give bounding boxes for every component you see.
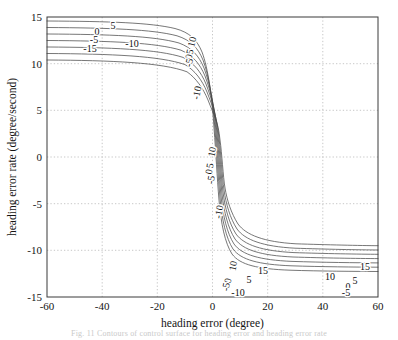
contour-label: 5 [353, 275, 358, 286]
x-tick-label: -20 [150, 300, 165, 312]
contour-label: 5 [204, 162, 216, 169]
contour-label: -5 [342, 287, 350, 298]
contour-label: 5 [111, 20, 116, 31]
contour-label: -10 [231, 287, 244, 298]
contour-label: -10 [212, 204, 225, 219]
contour-label: 10 [185, 36, 198, 48]
x-tick-label: -40 [95, 300, 110, 312]
contour-label: -15 [83, 43, 96, 54]
y-tick-label: -10 [27, 244, 42, 256]
figure-caption: Fig. 11 Contours of control surface for … [0, 327, 398, 340]
x-tick-label: 40 [317, 300, 329, 312]
contour-label: 10 [325, 271, 335, 282]
contour-label: -10 [125, 38, 138, 49]
contour-label: 15 [360, 261, 370, 272]
x-tick-label: 20 [262, 300, 274, 312]
contour-figure: -60-40-200204060 -15-10-5051015 5500-5-5… [0, 0, 398, 340]
y-tick-label: 5 [37, 104, 43, 116]
contour-label: 15 [258, 265, 268, 276]
plot-annotations: -60-40-200204060 -15-10-5051015 5500-5-5… [0, 0, 398, 340]
y-tick-label: -15 [27, 291, 42, 303]
x-tick-label: 60 [373, 300, 385, 312]
contour-label: 10 [227, 260, 240, 272]
y-tick-labels: -15-10-5051015 [27, 11, 42, 303]
y-tick-label: 15 [31, 11, 43, 23]
x-tick-labels: -60-40-200204060 [40, 300, 384, 312]
contour-label: 5 [247, 274, 252, 285]
y-axis-title: heading error rate (degree/second) [6, 78, 19, 236]
x-tick-label: 0 [210, 300, 216, 312]
contour-label: -10 [190, 85, 204, 100]
y-tick-label: 10 [31, 58, 43, 70]
y-tick-label: -5 [33, 198, 43, 210]
contour-label: -5 [205, 175, 217, 185]
contour-label: 10 [206, 146, 219, 158]
contour-labels: 5500-5-5-10-10-15-1510105500-5-5-10-1010… [83, 20, 370, 298]
y-tick-label: 0 [37, 151, 43, 163]
